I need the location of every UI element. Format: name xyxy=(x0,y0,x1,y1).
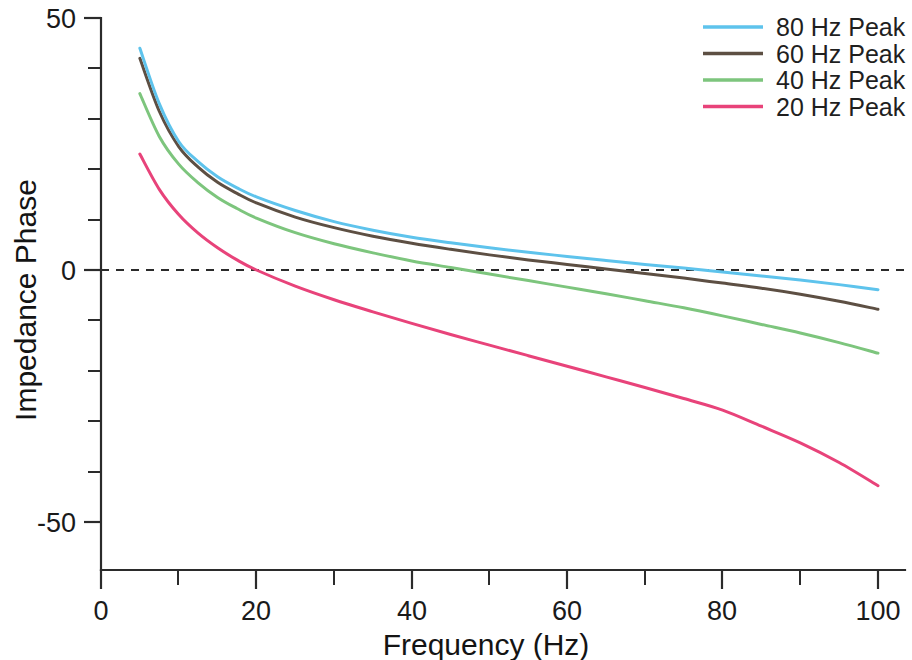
y-tick-label-50: 50 xyxy=(46,4,76,34)
series-group xyxy=(140,48,878,485)
legend-label-80-hz-peak: 80 Hz Peak xyxy=(776,13,906,41)
series-line-40-hz-peak xyxy=(140,94,878,354)
x-tick-label-40: 40 xyxy=(397,596,427,626)
y-axis-major-ticks xyxy=(84,18,101,522)
impedance-phase-chart: 50 0 -50 0 20 40 60 80 100 Frequency (Hz… xyxy=(0,0,912,660)
x-tick-label-80: 80 xyxy=(707,596,737,626)
series-line-80-hz-peak xyxy=(140,48,878,289)
plot-svg: 50 0 -50 0 20 40 60 80 100 Frequency (Hz… xyxy=(0,0,912,660)
series-line-20-hz-peak xyxy=(140,154,878,486)
legend-label-40-hz-peak: 40 Hz Peak xyxy=(776,66,906,94)
chart-legend: 80 Hz Peak60 Hz Peak40 Hz Peak20 Hz Peak xyxy=(703,13,906,121)
series-line-60-hz-peak xyxy=(140,58,878,309)
x-tick-label-60: 60 xyxy=(552,596,582,626)
x-tick-label-100: 100 xyxy=(855,596,900,626)
x-axis-minor-ticks xyxy=(178,570,800,585)
x-tick-label-0: 0 xyxy=(93,596,108,626)
y-tick-label-0: 0 xyxy=(61,256,76,286)
x-tick-label-20: 20 xyxy=(241,596,271,626)
legend-label-60-hz-peak: 60 Hz Peak xyxy=(776,40,906,68)
y-tick-label-minus50: -50 xyxy=(37,508,76,538)
x-axis-title: Frequency (Hz) xyxy=(383,628,590,660)
y-axis-title: Impedance Phase xyxy=(9,179,42,421)
legend-label-20-hz-peak: 20 Hz Peak xyxy=(776,93,906,121)
